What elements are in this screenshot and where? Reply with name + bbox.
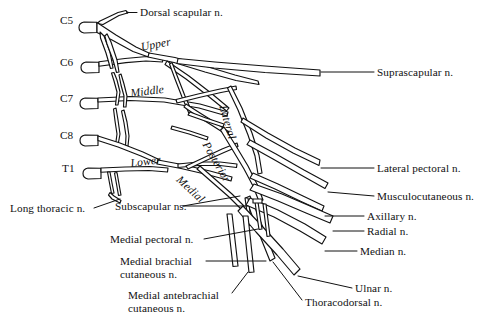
label-dorsal-scapular-n: Dorsal scapular n. [140,6,223,19]
leader-medial-antebrachial-cutaneous [232,272,248,293]
leader-musculocutaneous [328,192,374,196]
label-thoracodorsal-n: Thoracodorsal n. [305,296,382,309]
label-long-thoracic-n: Long thoracic n. [10,202,85,215]
label-ulnar-n: Ulnar n. [355,282,392,295]
label-suprascapular-n: Suprascapular n. [377,66,453,79]
t1-segment [101,167,168,204]
root-label-c5: C5 [60,14,73,27]
label-radial-n: Radial n. [367,225,408,238]
brachial-plexus-figure: C5 C6 C7 C8 T1 Upper Middle Lower Latera… [0,0,490,325]
root-label-c7: C7 [60,92,73,105]
lateral-cord [228,86,329,189]
label-median-n: Median n. [360,245,406,258]
label-medial-brachial-cutaneous-n: Medial brachial cutaneous n. [120,255,192,280]
root-label-t1: T1 [62,162,75,175]
label-medial-antebrachial-cutaneous-n: Medial antebrachial cutaneous n. [128,289,219,314]
label-subscapular-ns: Subscapular ns. [115,200,187,213]
label-lateral-pectoral-n: Lateral pectoral n. [377,162,461,175]
root-label-c6: C6 [60,56,73,69]
leader-ulnar [298,276,352,288]
root-label-c8: C8 [60,129,73,142]
label-axillary-n: Axillary n. [367,210,417,223]
label-medial-pectoral-n: Medial pectoral n. [110,233,194,246]
label-musculocutaneous-n: Musculocutaneous n. [377,190,474,203]
